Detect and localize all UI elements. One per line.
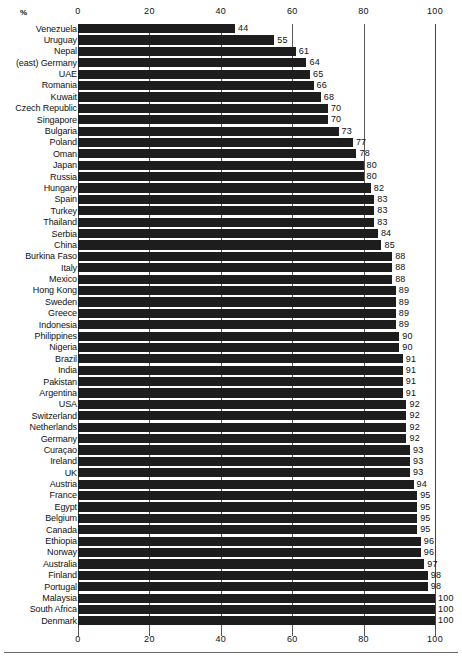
category-label: Brazil xyxy=(0,354,77,365)
bar-value-label: 66 xyxy=(317,80,327,91)
bar-row: Egypt95 xyxy=(0,502,462,513)
bar-row: Greece89 xyxy=(0,309,462,320)
bar-value-label: 88 xyxy=(395,262,405,273)
bar-row: Poland77 xyxy=(0,138,462,149)
category-label: Austria xyxy=(0,479,77,490)
category-label: UK xyxy=(0,468,77,479)
top-axis-tick-20: 20 xyxy=(144,6,155,16)
bar xyxy=(78,252,392,261)
category-label: Philippines xyxy=(0,331,77,342)
top-axis-tick-40: 40 xyxy=(215,6,226,16)
category-label: Finland xyxy=(0,570,77,581)
bar-row: South Africa100 xyxy=(0,605,462,616)
bar-value-label: 82 xyxy=(374,183,384,194)
bar-row: India91 xyxy=(0,366,462,377)
bar-row: USA92 xyxy=(0,400,462,411)
bar-value-label: 84 xyxy=(381,228,391,239)
category-label: Nepal xyxy=(0,46,77,57)
bar-chart: % 020406080100 020406080100 Venezuela44U… xyxy=(0,0,462,656)
category-label: Argentina xyxy=(0,388,77,399)
bar xyxy=(78,366,403,375)
category-label: Indonesia xyxy=(0,320,77,331)
bar-row: China85 xyxy=(0,240,462,251)
bar-row: Spain83 xyxy=(0,195,462,206)
category-label: Ireland xyxy=(0,456,77,467)
bar xyxy=(78,240,381,249)
bar-value-label: 92 xyxy=(409,422,419,433)
bar-row: France95 xyxy=(0,491,462,502)
bar-row: Thailand83 xyxy=(0,218,462,229)
bar-row: Brazil91 xyxy=(0,354,462,365)
bar xyxy=(78,172,364,181)
category-label: Oman xyxy=(0,149,77,160)
bar xyxy=(78,127,339,136)
category-label: Netherlands xyxy=(0,422,77,433)
category-label: Malaysia xyxy=(0,593,77,604)
bar-row: Hungary82 xyxy=(0,183,462,194)
bar-value-label: 88 xyxy=(395,251,405,262)
bar-value-label: 68 xyxy=(324,92,334,103)
bar-row: Ethiopia96 xyxy=(0,537,462,548)
bar-row: Nepal61 xyxy=(0,47,462,58)
category-label: Egypt xyxy=(0,502,77,513)
category-label: Venezuela xyxy=(0,24,77,35)
bar-value-label: 70 xyxy=(331,114,341,125)
bar xyxy=(78,92,321,101)
bar-row: Argentina91 xyxy=(0,388,462,399)
bar-value-label: 100 xyxy=(438,615,454,626)
category-label: Uruguay xyxy=(0,35,77,46)
category-label: Poland xyxy=(0,137,77,148)
bar xyxy=(78,183,371,192)
bar xyxy=(78,104,328,113)
bar-row: Czech Republic70 xyxy=(0,104,462,115)
bar-row: Malaysia100 xyxy=(0,594,462,605)
bar-value-label: 80 xyxy=(367,160,377,171)
category-label: Russia xyxy=(0,172,77,183)
bar xyxy=(78,400,406,409)
bar-value-label: 98 xyxy=(431,581,441,592)
bar-row: Turkey83 xyxy=(0,206,462,217)
category-label: Nigeria xyxy=(0,342,77,353)
category-label: Sweden xyxy=(0,297,77,308)
bar-row: Uruguay55 xyxy=(0,35,462,46)
bar-value-label: 70 xyxy=(331,103,341,114)
bar-value-label: 97 xyxy=(427,559,437,570)
category-label: Romania xyxy=(0,80,77,91)
bar-value-label: 90 xyxy=(402,331,412,342)
bar-value-label: 64 xyxy=(309,57,319,68)
bar-value-label: 85 xyxy=(384,240,394,251)
bar-value-label: 94 xyxy=(417,479,427,490)
top-axis-tick-0: 0 xyxy=(75,6,80,16)
bar-value-label: 91 xyxy=(406,354,416,365)
category-label: Japan xyxy=(0,160,77,171)
category-label: Kuwait xyxy=(0,92,77,103)
bar xyxy=(78,275,392,284)
bar xyxy=(78,457,410,466)
bar xyxy=(78,138,353,147)
bar xyxy=(78,514,417,523)
bar xyxy=(78,24,235,33)
bar-row: Venezuela44 xyxy=(0,24,462,35)
bar-value-label: 92 xyxy=(409,410,419,421)
category-label: Italy xyxy=(0,263,77,274)
category-label: Pakistan xyxy=(0,377,77,388)
category-label: Mexico xyxy=(0,274,77,285)
bar-value-label: 96 xyxy=(424,536,434,547)
category-label: Bulgaria xyxy=(0,126,77,137)
category-label: Thailand xyxy=(0,217,77,228)
bar xyxy=(78,218,374,227)
bar-value-label: 93 xyxy=(413,456,423,467)
bar-value-label: 98 xyxy=(431,570,441,581)
bar xyxy=(78,115,328,124)
bar-value-label: 55 xyxy=(277,35,287,46)
bar-value-label: 100 xyxy=(438,593,454,604)
bar-row: Italy88 xyxy=(0,263,462,274)
bar-row: Australia97 xyxy=(0,559,462,570)
bar xyxy=(78,445,410,454)
bar xyxy=(78,81,314,90)
bar xyxy=(78,571,428,580)
category-label: Denmark xyxy=(0,616,77,627)
bar xyxy=(78,286,396,295)
category-label: Germany xyxy=(0,434,77,445)
bar-value-label: 95 xyxy=(420,502,430,513)
